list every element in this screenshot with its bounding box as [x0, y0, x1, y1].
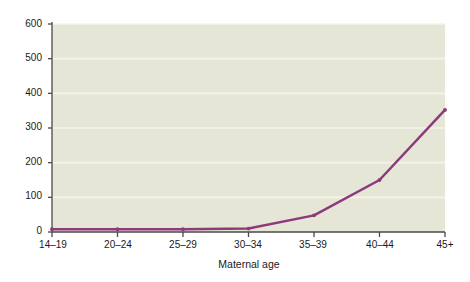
data-point-45+ — [443, 108, 447, 112]
data-point-40–44 — [378, 178, 382, 182]
data-point-35–39 — [312, 213, 316, 217]
plot-area — [0, 0, 470, 282]
data-point-30–34 — [247, 227, 251, 231]
data-point-25–29 — [181, 227, 185, 231]
data-point-20–24 — [116, 227, 120, 231]
chart-figure: Prevalence per 10,000 births 600 500 400… — [0, 0, 470, 282]
data-point-14–19 — [50, 227, 54, 231]
